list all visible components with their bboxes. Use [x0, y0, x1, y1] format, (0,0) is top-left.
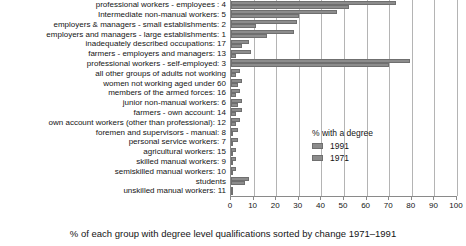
- x-axis-tick-label: 80: [406, 201, 415, 210]
- x-axis-tick: [456, 196, 457, 200]
- category-label: professional workers - employees : 4: [0, 0, 228, 10]
- legend-title: % with a degree: [312, 128, 373, 138]
- legend-label-1991: 1991: [330, 141, 349, 151]
- plot-area: [230, 0, 456, 196]
- bar-1971: [231, 63, 389, 67]
- category-label: employers & managers - small establishme…: [0, 20, 228, 30]
- bar-1971: [231, 54, 236, 58]
- gridline: [344, 0, 345, 196]
- category-label: farmers - own account: 14: [0, 108, 228, 118]
- gridline: [389, 0, 390, 196]
- bar-1971: [231, 44, 242, 48]
- x-axis-title: % of each group with degree level qualif…: [0, 228, 466, 239]
- bar-1971: [231, 14, 299, 18]
- category-label: semiskilled manual workers: 10: [0, 167, 228, 177]
- bar-1971: [231, 34, 267, 38]
- bar-1971: [231, 122, 236, 126]
- chart-legend: % with a degree 1991 1971: [312, 128, 373, 165]
- x-axis-tick-label: 70: [384, 201, 393, 210]
- category-label: farmers - employers and managers: 13: [0, 49, 228, 59]
- legend-swatch-1971: [312, 155, 323, 161]
- x-axis-tick: [343, 196, 344, 200]
- bar-1971: [231, 171, 233, 175]
- bar-1971: [231, 93, 236, 97]
- x-axis-tick: [411, 196, 412, 200]
- bar-1971: [231, 161, 233, 165]
- category-label: members of the armed forces: 16: [0, 88, 228, 98]
- bar-1971: [231, 142, 233, 146]
- category-label: Intermediate non-manual workers: 5: [0, 10, 228, 20]
- gridline: [367, 0, 368, 196]
- bar-1971: [231, 152, 233, 156]
- x-axis-tick: [388, 196, 389, 200]
- legend-item-1991: 1991: [312, 141, 373, 151]
- x-axis-tick: [366, 196, 367, 200]
- x-axis-tick: [298, 196, 299, 200]
- gridline: [457, 0, 458, 196]
- x-axis-tick-label: 50: [339, 201, 348, 210]
- category-label: students: [0, 177, 228, 187]
- x-axis-tick-label: 10: [248, 201, 257, 210]
- category-label: skilled manual workers: 9: [0, 157, 228, 167]
- category-label: inadequately described occupations: 17: [0, 39, 228, 49]
- x-axis-tick-label: 40: [316, 201, 325, 210]
- category-label: own account workers (other than professi…: [0, 118, 228, 128]
- category-label: women not working aged under 60: [0, 79, 228, 89]
- category-label: foremen and supervisors - manual: 8: [0, 128, 228, 138]
- category-label: all other groups of adults not working: [0, 69, 228, 79]
- legend-swatch-1991: [312, 143, 323, 149]
- bar-1971: [231, 83, 238, 87]
- x-axis-tick-label: 0: [228, 201, 232, 210]
- bar-1971: [231, 112, 236, 116]
- legend-item-1971: 1971: [312, 153, 373, 163]
- x-axis-tick-label: 20: [271, 201, 280, 210]
- x-axis-tick-label: 90: [429, 201, 438, 210]
- category-label: junior non-manual workers: 6: [0, 98, 228, 108]
- gridline: [434, 0, 435, 196]
- x-axis-tick: [230, 196, 231, 200]
- legend-label-1971: 1971: [330, 153, 349, 163]
- chart-container: professional workers - employees : 4Inte…: [0, 0, 466, 246]
- x-axis-tick: [320, 196, 321, 200]
- category-label: personal service workers: 7: [0, 137, 228, 147]
- gridline: [321, 0, 322, 196]
- x-axis-tick: [253, 196, 254, 200]
- bar-1971: [231, 191, 233, 195]
- bar-1971: [231, 181, 245, 185]
- category-label: unskilled manual workers: 11: [0, 186, 228, 196]
- category-label-column: professional workers - employees : 4Inte…: [0, 0, 228, 196]
- x-axis-tick-label: 100: [449, 201, 462, 210]
- x-axis-tick-label: 60: [361, 201, 370, 210]
- category-label: professional workers - self-employed: 3: [0, 59, 228, 69]
- x-axis-tick-label: 30: [293, 201, 302, 210]
- bar-1971: [231, 5, 349, 9]
- x-axis-tick: [275, 196, 276, 200]
- bar-1971: [231, 132, 233, 136]
- x-axis-tick: [433, 196, 434, 200]
- bar-1971: [231, 73, 236, 77]
- bar-1971: [231, 103, 238, 107]
- gridline: [299, 0, 300, 196]
- bar-1971: [231, 24, 256, 28]
- category-label: employers and managers - large establish…: [0, 30, 228, 40]
- gridline: [412, 0, 413, 196]
- category-label: agricultural workers: 15: [0, 147, 228, 157]
